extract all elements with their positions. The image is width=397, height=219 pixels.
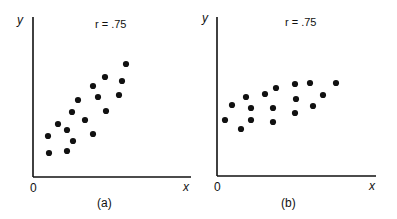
data-point [222,117,228,123]
x-axis-label-a: x [182,180,190,194]
data-point [64,148,70,154]
scatter-points-a [45,61,129,156]
data-point [270,105,276,111]
data-point [64,127,70,133]
data-point [307,80,313,86]
y-axis-label-b: y [201,11,209,25]
data-point [95,94,101,100]
data-point [248,117,254,123]
data-point [320,92,326,98]
data-point [103,108,109,114]
data-point [262,91,268,97]
correlation-annotation-a: r = .75 [95,18,127,30]
scatter-points-b [222,80,339,132]
data-point [248,105,254,111]
data-point [243,94,249,100]
data-point [270,119,276,125]
data-point [238,126,244,132]
data-point [273,85,279,91]
data-point [46,150,52,156]
panel-a: y x 0 r = .75 (a) [16,13,191,210]
data-point [293,96,299,102]
data-point [292,81,298,87]
data-point [75,97,81,103]
data-point [119,78,125,84]
data-point [45,133,51,139]
data-point [90,131,96,137]
origin-label-b: 0 [214,180,221,194]
data-point [333,80,339,86]
data-point [70,138,76,144]
panel-label-a: (a) [97,196,112,210]
correlation-annotation-b: r = .75 [285,16,317,28]
data-point [292,110,298,116]
x-axis-label-b: x [368,179,376,193]
data-point [55,121,61,127]
y-axis-label-a: y [16,13,24,27]
data-point [90,83,96,89]
data-point [102,74,108,80]
data-point [69,109,75,115]
data-point [123,61,129,67]
data-point [116,92,122,98]
panel-label-b: (b) [281,196,296,210]
origin-label-a: 0 [30,181,37,195]
panel-b: y x 0 r = .75 (b) [201,11,376,210]
figure: y x 0 r = .75 (a) y x 0 r = .75 (b) [0,0,397,219]
data-point [82,117,88,123]
data-point [310,103,316,109]
data-point [229,102,235,108]
